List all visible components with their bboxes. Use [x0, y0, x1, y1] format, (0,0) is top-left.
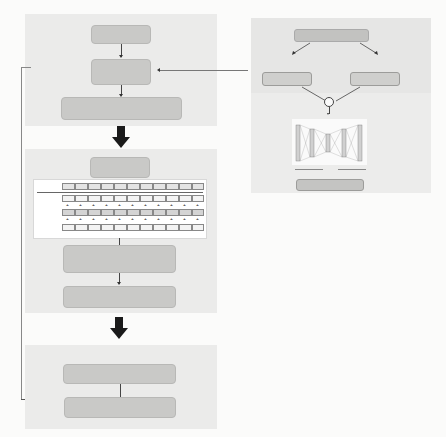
- big-arrow-down-icon: [112, 126, 130, 148]
- input-token-cell: [192, 183, 204, 190]
- segment-embedding-cell: [192, 209, 204, 216]
- input-token-cell: [101, 183, 114, 190]
- plus-icon: +: [79, 202, 82, 207]
- big-arrow-down-icon: [110, 317, 128, 339]
- input-token-cell: [166, 183, 179, 190]
- input-token-cell: [153, 183, 166, 190]
- low-dim-latent-box: [296, 179, 364, 191]
- keyword-connector-line: [160, 70, 248, 71]
- plus-icon: +: [144, 202, 147, 207]
- token-embedding-cell: [88, 195, 101, 202]
- token-embedding-cell: [127, 195, 140, 202]
- pretrain-finetune-box: [63, 245, 176, 273]
- segment-embedding-cell: [127, 209, 140, 216]
- plus-icon: +: [183, 202, 186, 207]
- plus-icon: +: [183, 216, 186, 221]
- optimal-parameter-loading-box: [63, 364, 176, 384]
- arrow-down-icon: [119, 55, 123, 58]
- position-embedding-cell: [192, 224, 204, 231]
- plus-icon: +: [105, 216, 108, 221]
- autoencoder-network-icon: [292, 119, 367, 165]
- topic-vector-box: [262, 72, 312, 86]
- input-token-cell: [75, 183, 88, 190]
- position-embedding-cell: [166, 224, 179, 231]
- feedback-line-top: [21, 67, 31, 68]
- segment-embedding-cell: [166, 209, 179, 216]
- input-token-cell: [62, 183, 75, 190]
- token-embedding-cell: [101, 195, 114, 202]
- token-embedding-cell: [62, 195, 75, 202]
- token-embedding-cell: [179, 195, 192, 202]
- plus-icon: +: [170, 216, 173, 221]
- token-embedding-cell: [192, 195, 204, 202]
- arrow-down-icon: [117, 282, 121, 285]
- plus-icon: +: [144, 216, 147, 221]
- arrow-line: [329, 107, 330, 114]
- input-token-cell: [140, 183, 153, 190]
- segment-embedding-cell: [75, 209, 88, 216]
- plus-icon: +: [66, 202, 69, 207]
- plus-icon: +: [66, 216, 69, 221]
- feedback-line-vertical: [21, 67, 22, 400]
- segment-embedding-cell: [114, 209, 127, 216]
- input-token-cell: [88, 183, 101, 190]
- arrow-left-icon: [157, 68, 160, 72]
- plus-icon: +: [105, 202, 108, 207]
- data-preprocessing-box: [91, 25, 151, 44]
- position-embedding-cell: [114, 224, 127, 231]
- plus-icon: +: [92, 216, 95, 221]
- bert-input-embedding-table: + + + + + + + + + + + + + + + + + + + + …: [33, 179, 207, 239]
- table-separator: [37, 192, 203, 193]
- segment-embedding-cell: [62, 209, 75, 216]
- segment-embedding-cell: [140, 209, 153, 216]
- plus-icon: +: [131, 216, 134, 221]
- segment-embedding-cell: [153, 209, 166, 216]
- position-embedding-cell: [88, 224, 101, 231]
- expanded-dataset-box: [61, 97, 182, 120]
- position-embedding-cell: [127, 224, 140, 231]
- input-token-cell: [179, 183, 192, 190]
- plus-icon: +: [118, 216, 121, 221]
- original-corpus-box: [294, 29, 369, 42]
- encoder-bracket: [295, 169, 323, 170]
- plus-icon: +: [196, 216, 199, 221]
- position-embedding-cell: [101, 224, 114, 231]
- plus-icon: +: [157, 216, 160, 221]
- position-embedding-cell: [62, 224, 75, 231]
- token-embedding-cell: [140, 195, 153, 202]
- feature-conversion-box: [90, 157, 150, 178]
- token-embedding-cell: [114, 195, 127, 202]
- input-token-cell: [114, 183, 127, 190]
- plus-icon: +: [131, 202, 134, 207]
- output-prediction-box: [64, 397, 176, 418]
- position-embedding-cell: [153, 224, 166, 231]
- branch-arrows: [290, 42, 380, 56]
- position-embedding-cell: [75, 224, 88, 231]
- plus-icon: +: [170, 202, 173, 207]
- position-embedding-cell: [179, 224, 192, 231]
- input-token-cell: [127, 183, 140, 190]
- arrow-down-icon: [327, 113, 329, 115]
- concat-icon: [324, 97, 334, 107]
- plus-icon: +: [92, 202, 95, 207]
- segment-embedding-cell: [88, 209, 101, 216]
- segment-embedding-cell: [101, 209, 114, 216]
- segment-embedding-cell: [179, 209, 192, 216]
- semantic-vector-box: [350, 72, 400, 86]
- plus-icon: +: [79, 216, 82, 221]
- position-embedding-cell: [140, 224, 153, 231]
- decoder-bracket: [338, 169, 366, 170]
- plus-icon: +: [196, 202, 199, 207]
- token-embedding-cell: [75, 195, 88, 202]
- plus-icon: +: [118, 202, 121, 207]
- token-embedding-cell: [166, 195, 179, 202]
- save-parameters-box: [63, 286, 176, 308]
- token-embedding-cell: [153, 195, 166, 202]
- plus-icon: +: [157, 202, 160, 207]
- auxiliary-sentence-box: [91, 59, 151, 85]
